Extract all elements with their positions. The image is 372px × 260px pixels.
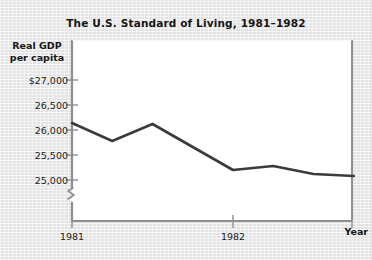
y-tick-label-27000: $27,000	[6, 75, 68, 86]
y-tick-label-25500: 25,500	[6, 150, 68, 161]
y-tick-label-25000: 25,000	[6, 175, 68, 186]
y-tick-label-26000: 26,000	[6, 125, 68, 136]
chart-figure: The U.S. Standard of Living, 1981–1982 R…	[0, 0, 372, 260]
x-tick-label-1981: 1981	[50, 231, 94, 242]
y-axis-break-icon	[68, 188, 74, 199]
x-axis-title: Year	[318, 226, 368, 237]
x-tick-label-1982: 1982	[211, 231, 255, 242]
y-tick-label-26500: 26,500	[6, 100, 68, 111]
gdp-per-capita-line-series	[72, 123, 354, 176]
